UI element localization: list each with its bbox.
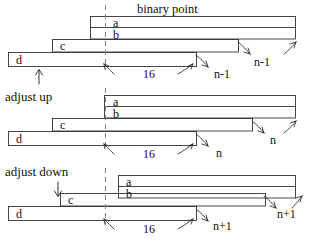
bar-c-bottom bbox=[61, 194, 266, 207]
bar-label-c-middle: c bbox=[60, 119, 65, 131]
bar-label-c-top: c bbox=[60, 40, 65, 52]
bar-d-bottom bbox=[9, 207, 197, 221]
bar-d-middle bbox=[9, 132, 197, 146]
bar-label-b-bottom: b bbox=[126, 188, 132, 200]
shift-label-lower-bottom: n+1 bbox=[213, 220, 232, 232]
diagram-canvas bbox=[0, 0, 312, 243]
adjust-up-arrow-icon bbox=[36, 70, 43, 85]
bar-c-top bbox=[53, 40, 239, 53]
binary-point-title: binary point bbox=[137, 3, 198, 16]
binary-point-alignment-diagram: binary point a b c d 16 n-1 n-1 adjust u… bbox=[0, 0, 312, 243]
shift-label-upper-middle: n bbox=[270, 134, 276, 146]
bar-label-b-top: b bbox=[113, 29, 119, 41]
shift-label-upper-bottom: n+1 bbox=[277, 208, 296, 220]
bar-label-d-middle: d bbox=[16, 133, 22, 145]
fraction-width-label-bottom: 16 bbox=[143, 223, 155, 235]
bar-c-middle bbox=[53, 119, 253, 132]
adjust-up-label: adjust up bbox=[5, 90, 52, 103]
adjust-down-label: adjust down bbox=[5, 165, 68, 178]
top-group-bars bbox=[9, 17, 296, 67]
bar-d-top bbox=[9, 53, 197, 67]
bar-label-d-top: d bbox=[16, 54, 22, 66]
middle-group-shift-arrows bbox=[104, 121, 296, 154]
bottom-group-shift-arrows bbox=[104, 196, 302, 229]
bar-label-b-middle: b bbox=[113, 108, 119, 120]
fraction-width-label-middle: 16 bbox=[143, 148, 155, 160]
shift-label-lower-middle: n bbox=[216, 147, 222, 159]
bar-label-d-bottom: d bbox=[16, 208, 22, 220]
bottom-group-bars bbox=[9, 176, 296, 221]
fraction-width-label-top: 16 bbox=[143, 68, 155, 80]
shift-label-lower-top: n-1 bbox=[214, 68, 230, 80]
bar-label-c-bottom: c bbox=[68, 194, 73, 206]
shift-label-upper-top: n-1 bbox=[254, 56, 270, 68]
